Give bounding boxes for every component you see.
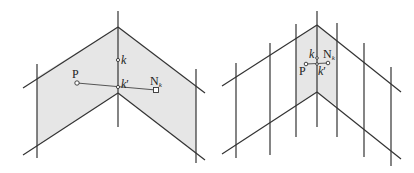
left-label-k-prime: k′ xyxy=(121,77,129,91)
right-point-k xyxy=(316,57,319,60)
left-point-k-prime xyxy=(116,85,119,88)
left-point-k xyxy=(116,58,119,61)
right-point-n-k xyxy=(326,61,330,65)
right-panel: P k k′ Nk xyxy=(222,11,401,166)
left-label-k: k xyxy=(121,53,127,67)
figure: P k k′ Nk P k k′ Nk xyxy=(0,0,414,173)
right-label-p: P xyxy=(299,64,306,78)
right-label-k-prime: k′ xyxy=(318,64,326,78)
left-panel: P k k′ Nk xyxy=(23,11,205,163)
right-lower-right-edge xyxy=(317,92,401,159)
right-label-k: k xyxy=(309,47,315,61)
left-label-p: P xyxy=(72,67,79,81)
left-point-p xyxy=(75,81,79,85)
